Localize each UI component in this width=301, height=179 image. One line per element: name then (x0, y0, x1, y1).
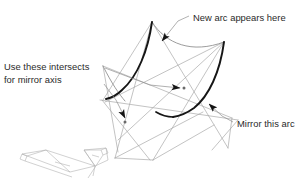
guide-arc-upper (152, 22, 224, 47)
construction-line-apex-lower-left (103, 22, 152, 100)
mirror-axis-label-line2: for mirror axis (4, 74, 62, 85)
mirror-arc-label: Mirror this arc (237, 118, 295, 129)
wireframe-inner-crease-left (46, 150, 70, 172)
guide-arcs (103, 22, 224, 101)
construction-line-apex-right-down (152, 22, 228, 148)
construction-line-right-outer (228, 118, 232, 148)
leader-lines (104, 16, 233, 122)
mirror-arc-right-tail (156, 112, 173, 117)
construction-line-bottom-chord (115, 158, 153, 160)
construction-line-leftedge-upper (103, 66, 232, 118)
wireframe-left-wing-top (22, 150, 95, 172)
construction-line-bottom-right-span (153, 125, 214, 160)
mirror-arc-right (173, 42, 224, 117)
folded-panel-wireframe (20, 148, 108, 178)
wireframe-left-cap (20, 154, 27, 161)
construction-line-bottom-left-span (115, 112, 203, 158)
diagram-root: New arc appears here Use these intersect… (0, 0, 301, 179)
wireframe-inner-crease-right (84, 150, 95, 166)
construction-line-right-inner (212, 120, 238, 150)
lower-intersect-dot (124, 121, 127, 124)
wireframe-skirt-left (25, 161, 72, 177)
wireframe-skirt-right (88, 155, 103, 178)
diagram-canvas: New arc appears here Use these intersect… (0, 0, 301, 179)
construction-line-left-vertical (103, 66, 118, 152)
upper-intersect-dot (183, 87, 186, 90)
wireframe-tick-right (92, 155, 99, 157)
new-arc-label: New arc appears here (193, 12, 286, 23)
construction-line-left-diag (102, 100, 150, 160)
mirror-axis-label-line1: Use these intersects (4, 61, 90, 72)
leader-mirror-arc (209, 104, 233, 122)
